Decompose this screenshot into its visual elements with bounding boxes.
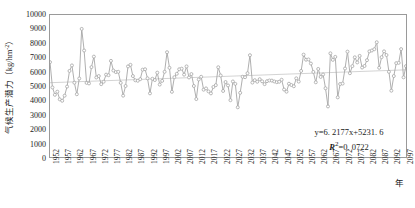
data-point-marker: [285, 90, 288, 93]
data-point-marker: [217, 66, 220, 69]
data-point-marker: [153, 79, 156, 82]
data-point-marker: [119, 81, 122, 84]
data-point-marker: [107, 74, 110, 77]
data-point-marker: [185, 65, 188, 68]
y-axis-tick-label: 5000: [30, 82, 46, 91]
data-point-marker: [392, 75, 395, 78]
data-point-marker: [131, 75, 134, 78]
data-point-marker: [122, 94, 125, 97]
x-axis-tick-label: 2037: [259, 149, 268, 164]
y-axis-unit-open: （kg/hm: [4, 50, 14, 81]
data-point-marker: [314, 81, 317, 84]
data-point-marker: [227, 84, 230, 87]
data-point-marker: [234, 82, 237, 85]
data-point-marker: [214, 84, 217, 87]
data-point-marker: [129, 63, 132, 66]
data-point-marker: [63, 94, 66, 97]
data-point-marker: [341, 82, 344, 85]
data-point-marker: [195, 98, 198, 101]
data-point-marker: [161, 79, 164, 82]
data-point-marker: [358, 54, 361, 57]
x-axis-tick-label: 2032: [247, 149, 256, 164]
data-point-marker: [236, 106, 239, 109]
y-axis-title-cjk: 气候生产潜力: [4, 80, 14, 134]
y-axis-tick-label: 8000: [30, 38, 46, 47]
x-axis-tick-label: 1967: [89, 149, 98, 164]
r-squared-value: =0. 0722: [338, 142, 368, 152]
data-point-marker: [251, 81, 254, 84]
data-point-marker: [385, 54, 388, 57]
data-point-marker: [183, 73, 186, 76]
data-point-marker: [73, 81, 76, 84]
data-point-marker: [173, 76, 176, 79]
data-point-marker: [292, 85, 295, 88]
data-point-marker: [205, 87, 208, 90]
data-point-marker: [326, 105, 329, 108]
data-point-marker: [170, 90, 173, 93]
data-point-marker: [300, 69, 303, 72]
data-point-marker: [66, 85, 69, 88]
data-point-marker: [319, 75, 322, 78]
data-point-marker: [322, 73, 325, 76]
data-point-marker: [192, 85, 195, 88]
data-point-marker: [383, 50, 386, 53]
data-point-marker: [400, 48, 403, 51]
data-point-marker: [146, 77, 149, 80]
data-point-marker: [297, 80, 300, 83]
data-point-marker: [390, 89, 393, 92]
data-point-marker: [324, 87, 327, 90]
data-point-marker: [100, 83, 103, 86]
data-point-marker: [70, 64, 73, 67]
data-point-marker: [224, 81, 227, 84]
data-point-marker: [402, 76, 405, 79]
y-axis-tick-label: 3000: [30, 110, 46, 119]
x-axis-title: 年: [395, 176, 404, 188]
x-axis-tick-label: 1982: [125, 149, 134, 164]
y-axis-unit-close: ）: [4, 36, 14, 45]
data-point-marker: [295, 77, 298, 80]
x-axis-tick-label: 2017: [210, 149, 219, 164]
x-axis-tick-label: 2022: [223, 149, 232, 164]
data-point-marker: [158, 83, 161, 86]
data-point-marker: [90, 66, 93, 69]
data-point-marker: [219, 74, 222, 77]
x-axis-tick-label: 1992: [150, 149, 159, 164]
data-point-marker: [61, 99, 64, 102]
x-axis-tick-label: 1957: [64, 149, 73, 164]
data-point-marker: [363, 64, 366, 67]
data-point-marker: [329, 52, 332, 55]
x-axis-tick-label: 2042: [271, 149, 280, 164]
data-point-marker: [80, 27, 83, 30]
data-point-marker: [88, 82, 91, 85]
regression-annotation: y=6. 2177x+5231. 6 R2=0. 0722: [290, 126, 408, 153]
data-point-marker: [331, 58, 334, 61]
data-point-marker: [239, 91, 242, 94]
data-point-marker: [102, 80, 105, 83]
data-point-marker: [387, 70, 390, 73]
x-axis-tick-label: 2007: [186, 149, 195, 164]
data-point-marker: [97, 75, 100, 78]
y-axis-tick-label: 2000: [30, 125, 46, 134]
regression-equation: y=6. 2177x+5231. 6: [290, 126, 408, 139]
data-point-marker: [348, 72, 351, 75]
y-axis-tick-label: 7000: [30, 53, 46, 62]
x-axis-tick-label: 1952: [52, 149, 61, 164]
data-point-marker: [397, 61, 400, 64]
data-point-marker: [248, 54, 251, 57]
x-axis-tick-labels: 1952195719621967197219771982198719921997…: [49, 159, 407, 205]
x-axis-tick-label: 2012: [198, 149, 207, 164]
data-point-marker: [346, 50, 349, 53]
r-squared: R2=0. 0722: [290, 139, 408, 154]
y-axis-tick-label: 9000: [30, 24, 46, 33]
data-point-markers: [50, 27, 406, 108]
x-axis-tick-label: 1962: [76, 149, 85, 164]
data-point-marker: [246, 72, 249, 75]
data-point-marker: [344, 67, 347, 70]
data-point-marker: [139, 78, 142, 81]
data-point-marker: [302, 53, 305, 56]
data-point-marker: [209, 92, 212, 95]
data-point-marker: [117, 70, 120, 73]
data-point-marker: [53, 93, 56, 96]
data-point-marker: [365, 59, 368, 62]
